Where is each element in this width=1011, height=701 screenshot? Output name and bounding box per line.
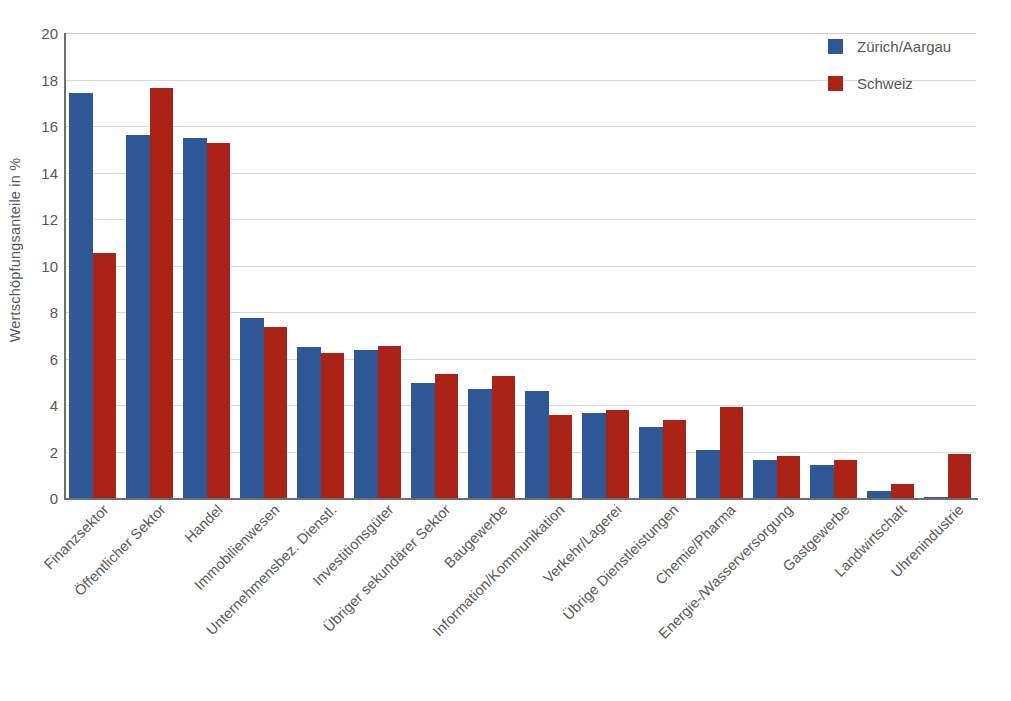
bar[interactable] (354, 350, 378, 498)
legend-item[interactable]: Schweiz (828, 75, 951, 92)
bar[interactable] (207, 143, 231, 498)
plot-area (64, 33, 976, 498)
legend-item-label: Zürich/Aargau (857, 38, 951, 55)
bar[interactable] (240, 318, 264, 498)
bar[interactable] (69, 93, 93, 498)
bar[interactable] (549, 415, 573, 498)
bar[interactable] (93, 253, 117, 498)
bar[interactable] (411, 383, 435, 498)
legend-swatch-icon (828, 39, 843, 54)
x-axis-tick-labels: FinanzsektorÖffentlicher SektorHandelImm… (64, 500, 978, 700)
bar[interactable] (492, 376, 516, 498)
y-axis-tick-label: 4 (12, 397, 58, 414)
bar-group (292, 33, 349, 498)
bar[interactable] (834, 460, 858, 498)
bar-group (805, 33, 862, 498)
bar[interactable] (378, 346, 402, 498)
bar[interactable] (606, 410, 630, 498)
bar-group (634, 33, 691, 498)
x-axis-tick-label: Handel (180, 500, 224, 544)
bar-group (691, 33, 748, 498)
y-axis-tick-label: 16 (12, 118, 58, 135)
bar-chart: Wertschöpfungsanteile in % 0246810121416… (0, 0, 1011, 701)
bar-group (178, 33, 235, 498)
bar-group (406, 33, 463, 498)
bar-group (520, 33, 577, 498)
bar[interactable] (183, 138, 207, 498)
bar[interactable] (867, 491, 891, 498)
bar-group (349, 33, 406, 498)
y-axis-tick-label: 18 (12, 71, 58, 88)
bar-group (862, 33, 919, 498)
legend-item-label: Schweiz (857, 75, 913, 92)
bar[interactable] (891, 484, 915, 498)
bar[interactable] (948, 454, 972, 498)
y-axis-tick-label: 0 (12, 490, 58, 507)
bar-group (577, 33, 634, 498)
bar[interactable] (525, 391, 549, 498)
y-axis-tick-label: 14 (12, 164, 58, 181)
bar[interactable] (720, 407, 744, 498)
y-axis-tick-label: 10 (12, 257, 58, 274)
bar[interactable] (435, 374, 459, 498)
y-axis-tick-labels: 02468101214161820 (0, 0, 58, 701)
y-axis-tick-label: 8 (12, 304, 58, 321)
bar[interactable] (126, 135, 150, 498)
y-axis-tick-label: 20 (12, 25, 58, 42)
bar-group (235, 33, 292, 498)
bar[interactable] (663, 420, 687, 498)
x-axis-tick-label-text: Handel (181, 501, 225, 545)
y-axis-tick-label: 12 (12, 211, 58, 228)
bars-layer (64, 33, 976, 498)
bar-group (748, 33, 805, 498)
bar-group (64, 33, 121, 498)
bar[interactable] (150, 88, 174, 498)
bar[interactable] (777, 456, 801, 498)
bar[interactable] (639, 427, 663, 498)
y-axis-tick-label: 6 (12, 350, 58, 367)
bar[interactable] (696, 450, 720, 498)
y-axis-line (64, 33, 66, 499)
bar-group (463, 33, 520, 498)
bar-group (121, 33, 178, 498)
bar[interactable] (264, 327, 288, 498)
bar[interactable] (753, 460, 777, 498)
legend-item[interactable]: Zürich/Aargau (828, 38, 951, 55)
y-axis-tick-label: 2 (12, 443, 58, 460)
bar[interactable] (468, 389, 492, 498)
bar[interactable] (810, 465, 834, 498)
bar-group (919, 33, 976, 498)
bar[interactable] (582, 413, 606, 498)
chart-legend: Zürich/AargauSchweiz (828, 38, 951, 92)
bar[interactable] (297, 347, 321, 498)
bar[interactable] (321, 353, 345, 498)
legend-swatch-icon (828, 76, 843, 91)
